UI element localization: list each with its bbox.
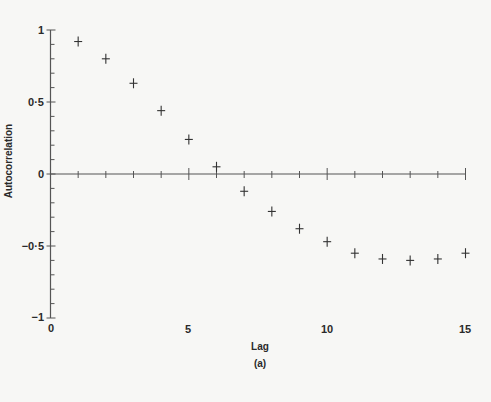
data-point-plus-icon xyxy=(379,254,387,264)
y-axis-ticks xyxy=(47,30,56,318)
y-tick-label-1: 1 xyxy=(38,24,44,36)
figure-caption: (a) xyxy=(254,358,266,369)
data-point-plus-icon xyxy=(185,134,193,144)
data-point-plus-icon xyxy=(323,237,331,247)
y-tick-labels: 1 0·5 0 −0·5 −1 xyxy=(22,24,44,323)
data-point-plus-icon xyxy=(268,206,276,216)
x-tick-label-5: 5 xyxy=(185,323,191,335)
x-tick-label-0: 0 xyxy=(48,322,54,334)
y-tick-label-0: 0 xyxy=(38,168,44,180)
data-point-plus-icon xyxy=(351,248,359,258)
autocorrelation-chart: 1 0·5 0 −0·5 −1 0 5 10 15 Lag Autocorrel… xyxy=(0,0,491,402)
data-point-plus-icon xyxy=(102,54,110,64)
data-point-plus-icon xyxy=(462,248,470,258)
y-tick-label-minus-0.5: −0·5 xyxy=(22,240,44,252)
data-point-plus-icon xyxy=(74,37,82,47)
data-point-plus-icon xyxy=(296,224,304,234)
x-tick-label-15: 15 xyxy=(459,323,471,335)
y-tick-label-0.5: 0·5 xyxy=(28,96,44,108)
data-point-plus-icon xyxy=(434,254,442,264)
x-tick-label-10: 10 xyxy=(321,323,333,335)
x-axis-title: Lag xyxy=(251,341,269,352)
data-point-plus-icon xyxy=(130,78,138,88)
data-markers xyxy=(74,37,469,266)
y-axis-title: Autocorrelation xyxy=(3,124,14,198)
y-tick-label-minus-1: −1 xyxy=(31,311,44,323)
data-point-plus-icon xyxy=(240,186,248,196)
axes xyxy=(47,30,467,318)
x-tick-labels: 0 5 10 15 xyxy=(48,322,471,335)
data-point-plus-icon xyxy=(213,162,221,172)
data-point-plus-icon xyxy=(406,255,414,265)
data-point-plus-icon xyxy=(157,106,165,116)
